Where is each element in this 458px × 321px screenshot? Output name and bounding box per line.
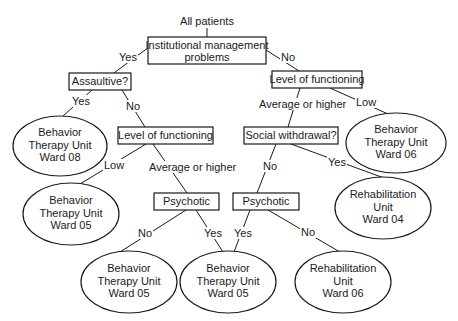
node-text: Rehabilitation	[350, 188, 417, 200]
node-text: Behavior	[38, 126, 82, 138]
decision-node-assaultive: Assaultive?	[69, 73, 131, 90]
node-text: Behavior	[206, 262, 250, 274]
edge-label-yes: Yes	[328, 156, 346, 168]
node-text: Behavior	[374, 123, 418, 135]
terminal-node-bt-ward-05-bottom-center: Behavior Therapy Unit Ward 05	[180, 251, 276, 313]
node-text: Behavior	[49, 194, 93, 206]
edge-label-yes: Yes	[72, 95, 90, 107]
decision-node-root: Institutional management problems	[146, 37, 269, 64]
node-text: Unit	[373, 201, 393, 213]
decision-node-social-withdrawal: Social withdrawal?	[244, 127, 338, 144]
edge-label-no: No	[263, 160, 277, 172]
node-text: Level of functioning	[118, 129, 213, 141]
node-text: Therapy Unit	[98, 275, 161, 287]
edge-label-no: No	[138, 227, 152, 239]
edge-label-low: Low	[356, 96, 376, 108]
terminal-node-bt-ward-06: Behavior Therapy Unit Ward 06	[346, 113, 446, 173]
node-text: Institutional management	[146, 39, 269, 51]
node-text: Ward 05	[50, 219, 91, 231]
node-text: Assaultive?	[72, 75, 128, 87]
node-text: Unit	[333, 275, 353, 287]
node-text: Therapy Unit	[365, 136, 428, 148]
terminal-node-rehab-ward-04: Rehabilitation Unit Ward 04	[335, 177, 431, 239]
node-text: Therapy Unit	[29, 139, 92, 151]
node-text: Ward 05	[207, 287, 248, 299]
edge-label-average-or-higher: Average or higher	[259, 98, 347, 110]
edge-label-no: No	[126, 100, 140, 112]
node-text: Rehabilitation	[310, 262, 377, 274]
node-text: Therapy Unit	[40, 207, 103, 219]
node-text: Ward 05	[108, 287, 149, 299]
node-text: Social withdrawal?	[245, 129, 336, 141]
node-text: Ward 06	[375, 148, 416, 160]
decision-node-level-of-functioning-right: Level of functioning	[270, 71, 365, 88]
root-label: All patients	[180, 15, 234, 27]
node-text: Therapy Unit	[197, 275, 260, 287]
decision-node-psychotic-left: Psychotic	[154, 193, 219, 210]
edge-label-yes: Yes	[204, 227, 222, 239]
edge-label-yes: Yes	[119, 51, 137, 63]
decision-tree-diagram: Yes No Yes No Low Average or higher Aver…	[0, 0, 458, 321]
terminal-node-bt-ward-08: Behavior Therapy Unit Ward 08	[13, 116, 107, 176]
edge-label-no: No	[301, 226, 315, 238]
terminal-node-rehab-ward-06: Rehabilitation Unit Ward 06	[295, 251, 391, 313]
node-text: Ward 08	[39, 151, 80, 163]
edge-label-yes: Yes	[234, 227, 252, 239]
node-text: Psychotic	[242, 195, 290, 207]
decision-node-psychotic-right: Psychotic	[233, 193, 299, 210]
terminal-node-bt-ward-05-mid: Behavior Therapy Unit Ward 05	[23, 183, 119, 245]
node-text: problems	[184, 51, 230, 63]
node-text: Psychotic	[163, 195, 211, 207]
node-text: Behavior	[107, 262, 151, 274]
edge-label-low: Low	[104, 159, 124, 171]
node-text: Ward 06	[322, 287, 363, 299]
edge-label-no: No	[281, 51, 295, 63]
terminal-node-bt-ward-05-bottom-left: Behavior Therapy Unit Ward 05	[81, 251, 177, 313]
node-text: Level of functioning	[270, 73, 365, 85]
decision-node-level-of-functioning-left: Level of functioning	[118, 127, 213, 144]
edge-label-average-or-higher: Average or higher	[149, 161, 237, 173]
node-text: Ward 04	[362, 213, 403, 225]
